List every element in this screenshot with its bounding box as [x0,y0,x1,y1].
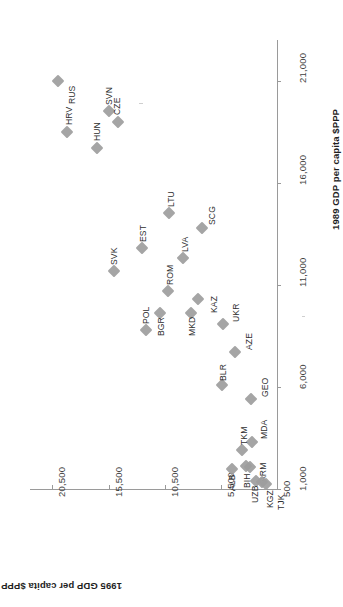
data-point-label: GEO [260,378,270,397]
y-axis-tick [277,485,278,489]
data-point-label: MKD [187,317,197,336]
data-point-label: CZE [112,97,122,115]
data-point-label: POL [141,306,151,324]
data-point-label: EST [138,225,148,242]
data-point-label: LTU [166,192,176,208]
data-point-label: SVK [109,247,119,265]
y-axis-tick [109,485,110,489]
y-axis-line [30,489,277,490]
data-point-label: TKM [239,427,249,445]
x-axis-tick [277,285,281,286]
x-axis-tick-label: 16,000 [297,155,308,185]
data-point-label: SCG [207,206,217,225]
x-axis-title: 1989 GDP per capita $PPP [330,109,341,230]
data-point-label: UZB [250,485,260,503]
x-axis-tick [277,387,281,388]
data-point-label: UKR [231,303,241,321]
data-point-label: HRV [64,107,74,125]
y-axis-tick-label: 10,500 [169,467,180,497]
plot-area [0,0,343,607]
artifact-speck [302,316,305,317]
x-axis-tick-label: 1,000 [297,466,308,491]
x-axis-tick-label: 11,000 [297,257,308,287]
data-point-label: TJK [276,494,286,510]
data-point-label: RUS [67,85,77,103]
x-axis-line [277,40,278,489]
y-axis-tick [52,485,53,489]
data-point-label: HUN [92,122,102,141]
data-point-label: MDA [259,420,269,439]
x-axis-tick-label: 6,000 [297,364,308,389]
y-axis-tick-label: 15,500 [113,467,124,497]
data-point-label: LVA [180,237,190,252]
x-axis-tick [277,183,281,184]
y-axis-tick-label: 20,500 [56,467,67,497]
x-axis-tick [277,81,281,82]
data-point-label: ALB [227,474,237,491]
y-axis-tick [165,485,166,489]
data-point-label: KAZ [209,296,219,313]
y-axis-tick [221,485,222,489]
data-point-label: KGZ [265,490,275,508]
x-axis-tick-label: 21,000 [297,53,308,83]
y-axis-title: 1995 GDP per capita $PPP [1,581,122,592]
data-point-label: BLR [218,364,228,381]
data-point-label: AZE [244,333,254,350]
artifact-speck-2 [139,103,143,104]
data-point-label: ROM [165,265,175,285]
scatter-chart: 1,0006,00011,00016,00021,0005005,50010,5… [0,0,343,607]
data-point-label: BGR [156,318,166,337]
